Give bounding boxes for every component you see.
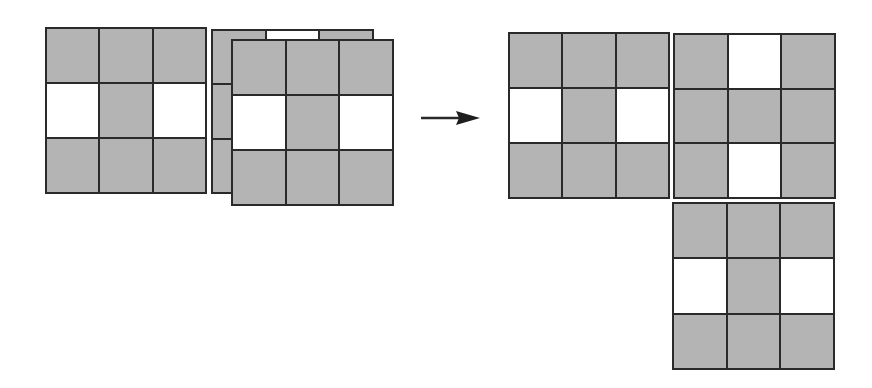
right-grid-a	[508, 32, 670, 199]
filled-cell-r2c0	[675, 144, 727, 197]
empty-cell-r1c2	[781, 259, 833, 312]
filled-cell-r2c0	[47, 139, 98, 192]
right-grid-c	[672, 202, 835, 370]
filled-cell-r0c1	[287, 41, 339, 94]
filled-cell-r2c1	[563, 144, 614, 197]
empty-cell-r1c2	[154, 84, 205, 137]
filled-cell-r2c1	[287, 151, 339, 204]
empty-cell-r1c2	[617, 89, 668, 142]
filled-cell-r1c2	[782, 90, 834, 143]
filled-cell-r0c1	[100, 29, 151, 82]
filled-cell-r0c1	[563, 34, 614, 87]
filled-cell-r0c0	[675, 35, 727, 88]
filled-cell-r1c1	[100, 84, 151, 137]
filled-cell-r1c1	[729, 90, 781, 143]
filled-cell-r0c2	[154, 29, 205, 82]
empty-cell-r2c1	[729, 144, 781, 197]
filled-cell-r1c0	[675, 90, 727, 143]
filled-cell-r0c2	[340, 41, 392, 94]
empty-cell-r1c0	[674, 259, 726, 312]
left-grid-stack-front	[231, 39, 394, 206]
filled-cell-r1c1	[287, 96, 339, 149]
filled-cell-r0c2	[782, 35, 834, 88]
empty-cell-r0c1	[729, 35, 781, 88]
filled-cell-r1c1	[728, 259, 780, 312]
filled-cell-r0c2	[781, 204, 833, 257]
filled-cell-r0c0	[47, 29, 98, 82]
filled-cell-r0c0	[674, 204, 726, 257]
filled-cell-r2c2	[782, 144, 834, 197]
empty-cell-r1c0	[47, 84, 98, 137]
filled-cell-r0c0	[233, 41, 285, 94]
filled-cell-r2c0	[233, 151, 285, 204]
filled-cell-r2c2	[154, 139, 205, 192]
filled-cell-r2c0	[510, 144, 561, 197]
filled-cell-r0c2	[617, 34, 668, 87]
filled-cell-r2c1	[100, 139, 151, 192]
left-grid-single	[45, 27, 207, 194]
filled-cell-r0c1	[728, 204, 780, 257]
right-grid-b	[673, 33, 836, 199]
filled-cell-r2c2	[340, 151, 392, 204]
empty-cell-r1c0	[510, 89, 561, 142]
filled-cell-r2c1	[728, 315, 780, 368]
empty-cell-r1c0	[233, 96, 285, 149]
filled-cell-r1c1	[563, 89, 614, 142]
filled-cell-r2c2	[617, 144, 668, 197]
filled-cell-r2c2	[781, 315, 833, 368]
filled-cell-r0c0	[510, 34, 561, 87]
empty-cell-r1c2	[340, 96, 392, 149]
filled-cell-r2c0	[674, 315, 726, 368]
right-arrow-icon	[418, 108, 484, 128]
